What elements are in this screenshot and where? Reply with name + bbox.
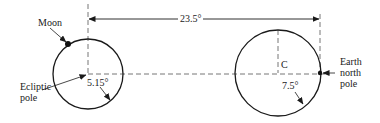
moon-angle-label: 5.15° bbox=[87, 78, 109, 88]
moon-pointer-arrow bbox=[50, 28, 66, 42]
earth-north-pole-dot bbox=[318, 71, 322, 75]
ecliptic-pole-label-line1: Ecliptic bbox=[20, 82, 51, 92]
earth-pole-label-line2: north bbox=[340, 68, 361, 78]
moon-label: Moon bbox=[38, 18, 62, 28]
separation-angle-label: 23.5° bbox=[180, 14, 202, 24]
construction-lines bbox=[88, 4, 330, 74]
earth-angle-label: 7.5° bbox=[282, 81, 299, 91]
earth-pole-label-line3: pole bbox=[340, 79, 357, 89]
radius-arrow-earth bbox=[295, 92, 303, 104]
ecliptic-pole-label-line2: pole bbox=[20, 93, 37, 103]
radius-arrow-moon bbox=[100, 87, 110, 100]
center-c-label: C bbox=[281, 60, 288, 70]
earth-pole-label-line1: Earth bbox=[340, 57, 362, 67]
